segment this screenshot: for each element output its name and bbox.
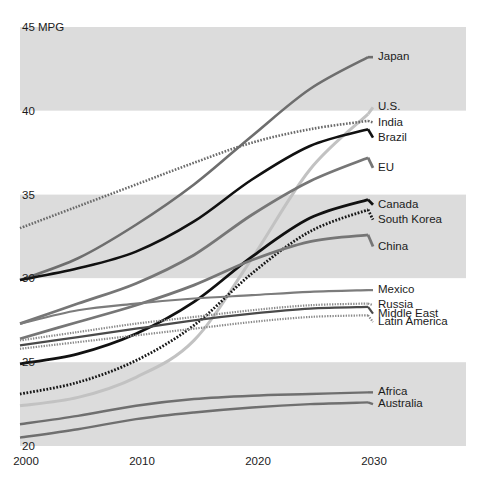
series-label-canada: Canada [378, 198, 419, 210]
band-45-40 [20, 27, 466, 111]
y-tick-30: 30 [22, 272, 35, 284]
leader-australia [368, 402, 373, 404]
y-tick-35: 35 [22, 189, 35, 201]
series-label-south-korea: South Korea [378, 213, 443, 225]
y-tick-25: 25 [22, 356, 35, 368]
series-label-china: China [378, 240, 409, 252]
x-tick-2020: 2020 [245, 455, 271, 467]
series-label-latin-america: Latin America [378, 315, 448, 327]
series-label-australia: Australia [378, 397, 423, 409]
y-tick-45: 45 MPG [22, 21, 64, 33]
y-tick-40: 40 [22, 105, 35, 117]
chart-canvas: 45 MPG4035302520 2000201020202030 JapanU… [0, 0, 480, 498]
x-tick-2030: 2030 [361, 455, 387, 467]
x-tick-2010: 2010 [129, 455, 155, 467]
series-label-japan: Japan [378, 50, 409, 62]
series-label-eu: EU [378, 161, 394, 173]
series-label-mexico: Mexico [378, 283, 414, 295]
y-tick-20: 20 [22, 440, 35, 452]
series-label-india: India [378, 116, 404, 128]
fuel-economy-line-chart: 45 MPG4035302520 2000201020202030 JapanU… [0, 0, 480, 498]
x-tick-2000: 2000 [13, 455, 39, 467]
background-bands [20, 27, 466, 446]
x-axis-tick-labels: 2000201020202030 [13, 455, 387, 467]
series-label-africa: Africa [378, 385, 408, 397]
series-label-brazil: Brazil [378, 131, 407, 143]
series-label-u-s-: U.S. [378, 100, 400, 112]
